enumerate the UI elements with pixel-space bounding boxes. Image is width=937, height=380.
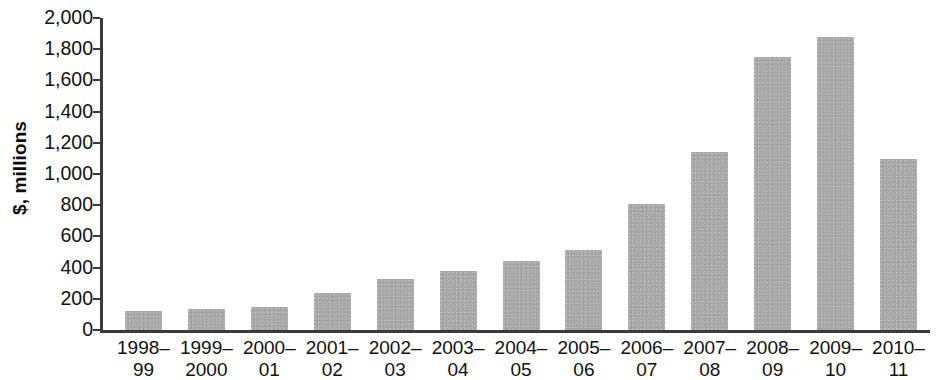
bar[interactable] <box>503 261 540 330</box>
y-axis-tick <box>93 111 100 113</box>
y-axis-tick-label: 200 <box>11 289 93 309</box>
x-axis-tick-label-line1: 2002– <box>369 337 422 358</box>
x-axis-tick-label: 1998–99 <box>112 337 175 380</box>
y-axis-tick-label: 1,400 <box>11 102 93 122</box>
bar-slot <box>691 12 728 330</box>
bar-slot <box>565 12 602 330</box>
bar[interactable] <box>565 250 602 330</box>
y-axis-tick <box>93 298 100 300</box>
y-axis-tick <box>93 329 100 331</box>
x-axis-tick-label-line1: 2004– <box>495 337 548 358</box>
bar[interactable] <box>628 204 665 330</box>
x-axis-tick-label: 2003–04 <box>427 337 490 380</box>
bar-chart: $, millions 2,0001,8001,6001,4001,2001,0… <box>0 0 937 380</box>
x-axis-tick-label-line1: 2010– <box>872 337 925 358</box>
y-axis-tick <box>93 142 100 144</box>
bar-slot <box>503 12 540 330</box>
x-axis-tick-label: 2006–07 <box>615 337 678 380</box>
x-axis-tick-label: 2009–10 <box>804 337 867 380</box>
x-axis-tick-label-line1: 1998– <box>117 337 170 358</box>
x-axis-tick-label: 1999–2000 <box>175 337 238 380</box>
bar-slot <box>880 12 917 330</box>
x-axis-tick-label: 2000–01 <box>238 337 301 380</box>
x-axis-tick-label-line2: 99 <box>112 359 175 380</box>
x-axis-tick-label-line1: 2001– <box>306 337 359 358</box>
y-axis-tick-label: 400 <box>11 258 93 278</box>
x-axis-tick-label-line1: 2008– <box>746 337 799 358</box>
x-axis-tick-label-line1: 2000– <box>243 337 296 358</box>
y-axis-tick <box>93 267 100 269</box>
bar-slot <box>125 12 162 330</box>
x-axis-tick-label-line2: 05 <box>490 359 553 380</box>
bar-slot <box>817 12 854 330</box>
x-axis-tick-label: 2010–11 <box>867 337 930 380</box>
bar-slot <box>314 12 351 330</box>
y-axis-tick-label: 2,000 <box>11 8 93 28</box>
x-axis-tick-label-line1: 2009– <box>809 337 862 358</box>
y-axis-tick-label: 1,000 <box>11 164 93 184</box>
x-axis-tick-label-line1: 1999– <box>180 337 233 358</box>
y-axis-tick-label: 1,800 <box>11 39 93 59</box>
bar-slot <box>754 12 791 330</box>
bar[interactable] <box>251 307 288 330</box>
x-axis-tick-label-line1: 2005– <box>557 337 610 358</box>
y-axis-tick-label: 1,200 <box>11 133 93 153</box>
bar-slot <box>251 12 288 330</box>
bar[interactable] <box>314 293 351 330</box>
y-axis-tick <box>93 79 100 81</box>
x-axis-tick-label-line2: 2000 <box>175 359 238 380</box>
plot-area: 2,0001,8001,6001,4001,2001,0008006004002… <box>100 10 930 335</box>
x-axis-tick-label-line1: 2007– <box>683 337 736 358</box>
x-axis-tick-label-line1: 2006– <box>620 337 673 358</box>
bar[interactable] <box>125 311 162 331</box>
bar[interactable] <box>817 37 854 330</box>
bar[interactable] <box>880 159 917 330</box>
x-axis-tick-label-line2: 10 <box>804 359 867 380</box>
bar[interactable] <box>377 279 414 330</box>
x-axis-tick-label: 2002–03 <box>364 337 427 380</box>
x-axis-tick-label: 2001–02 <box>301 337 364 380</box>
y-axis-tick <box>93 204 100 206</box>
x-axis-tick-label: 2005–06 <box>552 337 615 380</box>
y-axis-tick <box>93 48 100 50</box>
bar[interactable] <box>440 271 477 330</box>
x-axis-tick-label: 2007–08 <box>678 337 741 380</box>
x-axis-tick-label-line2: 01 <box>238 359 301 380</box>
x-axis-tick-label-line2: 02 <box>301 359 364 380</box>
x-axis-tick-label-line2: 11 <box>867 359 930 380</box>
bar-slot <box>440 12 477 330</box>
x-axis-tick-label-line2: 03 <box>364 359 427 380</box>
y-axis-tick-label: 1,600 <box>11 70 93 90</box>
x-axis-tick-label-line1: 2003– <box>432 337 485 358</box>
bar-slot <box>628 12 665 330</box>
y-axis-tick-label: 800 <box>11 195 93 215</box>
y-axis-tick <box>93 17 100 19</box>
x-axis-tick-label-line2: 06 <box>552 359 615 380</box>
x-axis-tick-label-line2: 04 <box>427 359 490 380</box>
x-axis-tick-label: 2004–05 <box>490 337 553 380</box>
bar[interactable] <box>188 309 225 330</box>
y-axis-tick-label: 600 <box>11 226 93 246</box>
bar-slot <box>377 12 414 330</box>
y-axis-tick <box>93 235 100 237</box>
x-axis-tick-label-line2: 07 <box>615 359 678 380</box>
y-axis-tick-labels: 2,0001,8001,6001,4001,2001,0008006004002… <box>5 10 93 335</box>
x-axis-tick-label-line2: 08 <box>678 359 741 380</box>
y-axis-tick <box>93 173 100 175</box>
x-axis-tick-labels: 1998–991999–20002000–012001–022002–03200… <box>100 337 930 380</box>
bar-series <box>100 10 930 332</box>
bar[interactable] <box>691 152 728 330</box>
x-axis-tick-label: 2008–09 <box>741 337 804 380</box>
x-axis-tick-label-line2: 09 <box>741 359 804 380</box>
y-axis-tick-label: 0 <box>11 320 93 340</box>
bar-slot <box>188 12 225 330</box>
bar[interactable] <box>754 57 791 330</box>
